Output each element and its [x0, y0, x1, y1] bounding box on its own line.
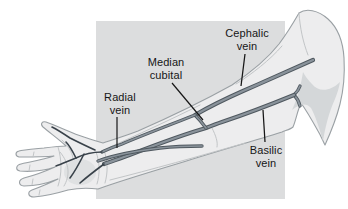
label-median-cubital: Median cubital — [148, 56, 185, 82]
label-line: Cephalic — [225, 27, 269, 40]
label-line: vein — [225, 40, 269, 53]
label-line: vein — [250, 157, 283, 170]
label-line: Basilic — [250, 144, 283, 157]
label-line: cubital — [148, 69, 185, 82]
arm-vein-illustration — [0, 0, 348, 209]
label-line: Median — [148, 56, 185, 69]
label-basilic-vein: Basilic vein — [250, 144, 283, 170]
label-cephalic-vein: Cephalic vein — [225, 27, 269, 53]
label-radial-vein: Radial vein — [104, 91, 136, 117]
label-line: Radial — [104, 91, 136, 104]
figure-canvas: Cephalic vein Median cubital Radial vein… — [0, 0, 348, 209]
label-line: vein — [104, 104, 136, 117]
